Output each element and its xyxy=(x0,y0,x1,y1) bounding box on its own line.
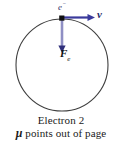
figure-caption: Electron 2 μ points out of page xyxy=(0,114,122,140)
force-vector-label-subscript: e xyxy=(67,55,70,63)
caption-note: μ points out of page xyxy=(0,127,122,140)
magnetic-moment-symbol: μ xyxy=(16,126,23,140)
velocity-vector-arrowhead xyxy=(88,14,96,21)
force-vector-label: Fe xyxy=(60,48,70,62)
velocity-vector-label: v xyxy=(97,9,102,20)
electron-dot xyxy=(59,16,64,21)
electron-label-superscript: − xyxy=(62,0,66,6)
caption-note-text: points out of page xyxy=(23,127,107,139)
electron-orbit-figure: e− v Fe Electron 2 μ points out of page xyxy=(0,0,122,143)
electron-label: e− xyxy=(58,1,66,12)
